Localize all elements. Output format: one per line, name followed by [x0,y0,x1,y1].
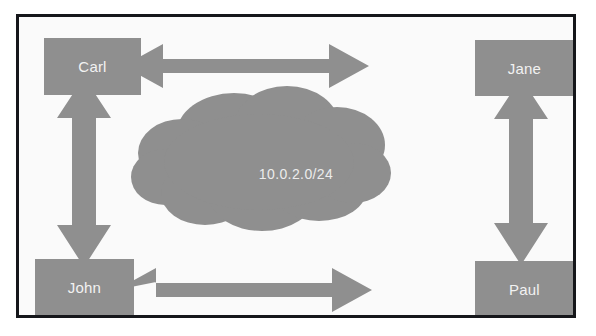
node-jane[interactable]: Jane [475,40,573,96]
connector-jane-paul [494,78,548,265]
network-cloud-icon [131,86,391,231]
node-paul-label: Paul [509,282,540,297]
node-carl[interactable]: Carl [44,38,141,95]
node-john[interactable]: John [35,259,134,315]
connector-carl-jane [123,44,369,88]
node-carl-label: Carl [78,59,106,74]
connector-john-paul [116,268,372,312]
diagram-frame: Carl Jane John Paul 10.0.2.0/24 [16,14,576,318]
node-john-label: John [68,280,101,295]
node-paul[interactable]: Paul [475,261,573,315]
diagram-canvas: Carl Jane John Paul 10.0.2.0/24 [0,0,596,336]
cloud-subnet-label: 10.0.2.0/24 [201,166,391,182]
node-jane-label: Jane [508,61,541,76]
diagram-surface: Carl Jane John Paul 10.0.2.0/24 [19,17,573,315]
connector-carl-john [57,77,111,267]
